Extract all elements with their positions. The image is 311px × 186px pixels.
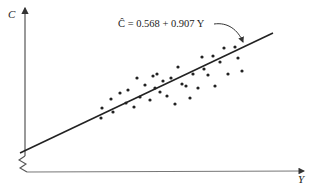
equation-label: Ĉ = 0.568 + 0.907 Y	[118, 18, 205, 29]
data-point	[240, 69, 243, 72]
data-point	[213, 84, 216, 87]
data-point	[200, 55, 203, 58]
data-point	[138, 95, 141, 98]
data-point	[173, 102, 176, 105]
regression-line	[20, 33, 273, 153]
scatter-chart: C Y Ĉ = 0.568 + 0.907 Y	[0, 0, 311, 186]
data-point	[153, 86, 156, 89]
data-point	[148, 98, 151, 101]
data-point	[180, 82, 183, 85]
data-point	[236, 56, 239, 59]
data-point	[111, 110, 114, 113]
data-point	[126, 88, 129, 91]
data-point	[158, 90, 161, 93]
x-axis-line	[27, 171, 304, 172]
data-point	[99, 116, 102, 119]
data-point	[100, 106, 103, 109]
data-point	[118, 91, 121, 94]
data-point	[143, 83, 146, 86]
data-point	[188, 96, 191, 99]
data-point	[176, 65, 179, 68]
data-point	[135, 76, 138, 79]
data-point	[109, 97, 112, 100]
data-point	[222, 46, 225, 49]
data-point	[202, 67, 205, 70]
x-axis-label: Y	[298, 173, 306, 185]
data-point	[161, 79, 164, 82]
data-point	[151, 74, 154, 77]
data-point	[191, 72, 194, 75]
data-point	[165, 94, 168, 97]
annotation-arrow-icon	[214, 24, 243, 42]
x-axis: Y	[27, 171, 306, 185]
data-point	[184, 84, 187, 87]
data-point	[196, 86, 199, 89]
y-axis-label: C	[8, 8, 16, 20]
data-point	[218, 60, 221, 63]
data-point	[124, 101, 127, 104]
data-point	[211, 54, 214, 57]
data-point	[226, 72, 229, 75]
data-point	[233, 45, 236, 48]
axis-break-zigzag-icon	[19, 156, 27, 172]
data-point	[132, 105, 135, 108]
y-axis: C	[8, 8, 27, 172]
data-point	[155, 72, 158, 75]
data-point	[206, 73, 209, 76]
data-point	[169, 76, 172, 79]
